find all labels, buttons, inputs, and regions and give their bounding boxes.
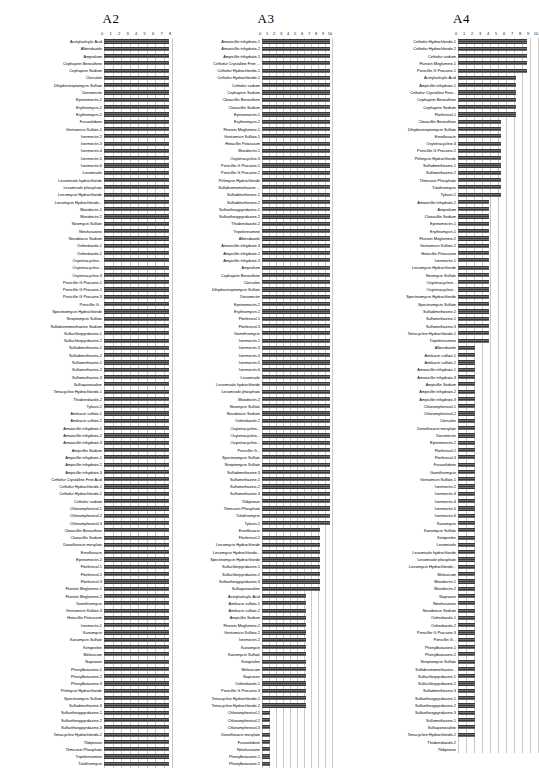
gridline	[530, 67, 531, 74]
gridline	[530, 74, 531, 81]
bar-row-label: Nitrofurazone	[2, 228, 104, 235]
gridline	[498, 556, 499, 563]
gridline	[506, 432, 507, 439]
gridline	[506, 344, 507, 351]
bar	[458, 382, 475, 386]
gridline	[506, 323, 507, 330]
bar-row-label: Ampicillin trihydrate-1	[332, 82, 458, 89]
gridline	[522, 709, 523, 716]
gridline	[466, 739, 467, 746]
bar-row: Penicillin G Procaine-2	[172, 169, 332, 176]
bar-row: Ampicillin trihydrate-2	[172, 250, 332, 257]
gridline	[530, 184, 531, 191]
gridline	[482, 483, 483, 490]
gridline	[325, 702, 326, 709]
bar-row-label: Amoxicillin trihydrate-1	[2, 425, 104, 432]
bar	[104, 674, 169, 678]
bar-row-label: Sulfachlorpyridazine-1	[2, 330, 104, 337]
bar	[104, 609, 169, 613]
bar-plot-cell	[104, 541, 172, 548]
gridline	[490, 257, 491, 264]
bar-row-label: Sulfamethazine-1	[2, 359, 104, 366]
bar-row: Neomycin Sulfate	[2, 220, 172, 227]
gridline	[522, 534, 523, 541]
bar	[104, 660, 169, 664]
gridline	[514, 673, 515, 680]
bar-row: Lincomycin Hydrochloride...	[172, 549, 332, 556]
gridline	[482, 695, 483, 702]
bar-row-label: Ivermectin-1	[2, 622, 104, 629]
bar	[458, 185, 501, 189]
gridline	[325, 746, 326, 753]
bar-row-label: Cephapirin Sodium	[2, 67, 104, 74]
bar-plot-cell	[262, 629, 332, 636]
bar-plot-cell	[262, 534, 332, 541]
bar	[262, 397, 330, 401]
bar-plot-cell	[458, 337, 538, 344]
gridline	[490, 658, 491, 665]
bar-row-label: Nitrofurazone	[332, 600, 458, 607]
gridline	[498, 425, 499, 432]
gridline	[506, 512, 507, 519]
bar-row: Moxidectin-1	[172, 147, 332, 154]
gridline	[318, 753, 319, 760]
bar-row: Danofloxacin mesylate	[332, 425, 539, 432]
bar-plot-cell	[262, 432, 332, 439]
gridline	[490, 520, 491, 527]
bar-row: Streptomycin Sulfate	[2, 315, 172, 322]
bar	[262, 309, 330, 313]
bar-row-label: Erythromycin-1	[332, 228, 458, 235]
gridline	[514, 169, 515, 176]
bar-row-label: Oxytetracycline...	[172, 439, 262, 446]
bar-row: Tilmicosin Phosphate	[2, 746, 172, 753]
bar-row-label: Neomycin Sulfate	[172, 403, 262, 410]
bar	[262, 536, 320, 540]
bar-row: Cloxacillin Benzathine	[2, 527, 172, 534]
bar-row-label: Tulathromycin	[332, 184, 458, 191]
bar	[458, 76, 516, 80]
gridline	[522, 695, 523, 702]
bar	[104, 514, 169, 518]
bar-row: Meloxicam	[2, 651, 172, 658]
bar-plot-cell	[104, 432, 172, 439]
bar-row-label: Erythromycin-1	[2, 104, 104, 111]
bar	[262, 317, 330, 321]
bar-plot-cell	[262, 89, 332, 96]
bar-row: Ivermectin-2	[2, 133, 172, 140]
bar	[458, 346, 475, 350]
gridline	[490, 337, 491, 344]
panel-a4-rows: Ceftiofur Hydrochloride-1Ceftiofur Hydro…	[332, 38, 539, 753]
bar	[262, 185, 330, 189]
bar-row-label: Amoxicillin trihydrate-1	[172, 38, 262, 45]
bar-row: Penicillin G Procaine-2	[332, 147, 539, 154]
gridline	[530, 242, 531, 249]
bar	[262, 594, 306, 598]
bar	[262, 419, 330, 423]
bar-plot-cell	[458, 498, 538, 505]
gridline	[530, 191, 531, 198]
bar	[262, 295, 330, 299]
bar-plot-cell	[104, 126, 172, 133]
bar-row: Sulfaquinoxaline	[2, 381, 172, 388]
gridline	[482, 476, 483, 483]
bar-plot-cell	[262, 505, 332, 512]
gridline	[482, 381, 483, 388]
bar-row: Moxidectin-1	[2, 206, 172, 213]
bar-row-label: Novobiocin Sodium	[332, 607, 458, 614]
gridline	[514, 352, 515, 359]
gridline	[522, 739, 523, 746]
gridline	[522, 600, 523, 607]
bar-plot-cell	[458, 257, 538, 264]
bar	[104, 616, 169, 620]
bar-row-label: Ampicillin trihydrate-1	[2, 454, 104, 461]
bar-plot-cell	[458, 242, 538, 249]
bar-row: Phenylbutazone-2	[2, 673, 172, 680]
bar-row: Lincomycin Hydrochloride	[2, 191, 172, 198]
bar	[104, 163, 169, 167]
axis-tick: 3	[479, 29, 481, 38]
bar	[458, 543, 475, 547]
gridline	[522, 636, 523, 643]
panel-a2: A2 012345678 Acetylsalicylic AcidAlbenda…	[0, 0, 172, 768]
gridline	[490, 432, 491, 439]
gridline	[514, 461, 515, 468]
